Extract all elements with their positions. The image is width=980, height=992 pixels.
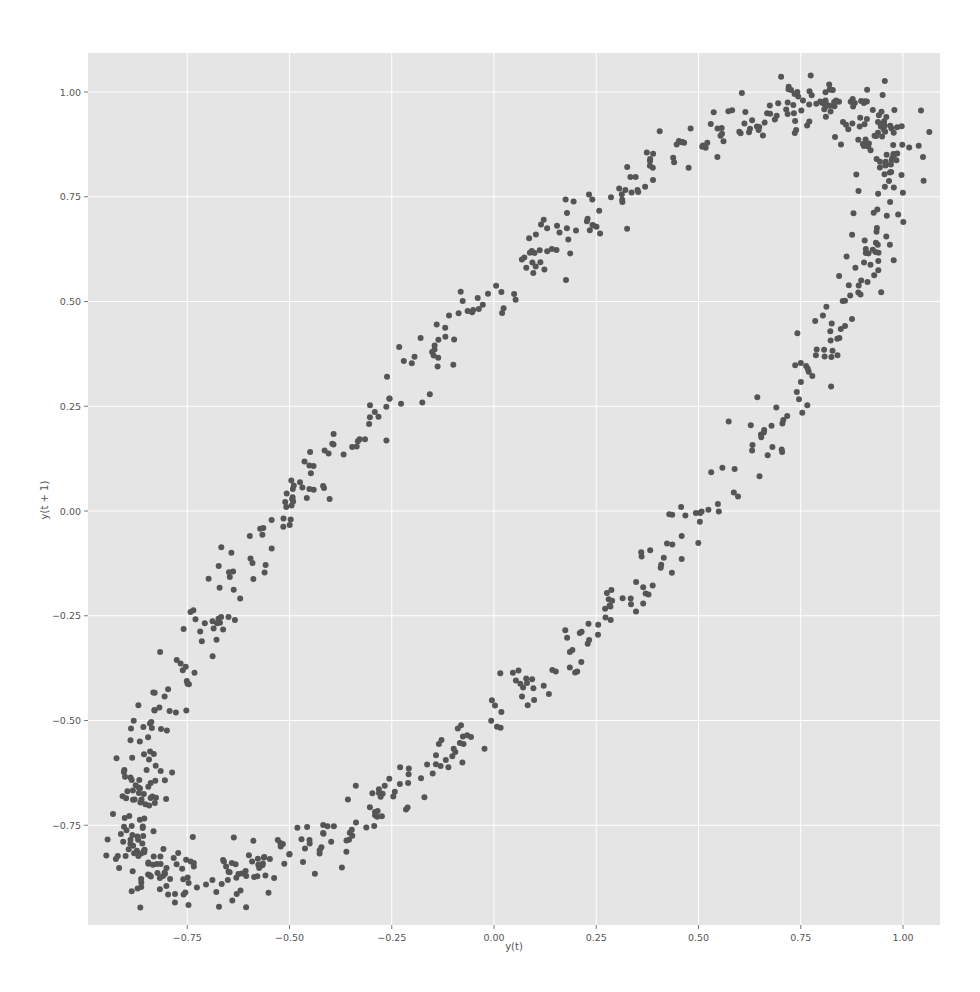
y-tick-label: 0.50 [60,296,81,307]
data-point [875,267,881,273]
data-point [519,694,525,700]
data-point [383,438,389,444]
data-point [430,770,436,776]
data-point [686,165,692,171]
data-point [554,223,560,229]
data-point [355,438,361,444]
data-point [419,400,425,406]
data-point [883,162,889,168]
data-point [482,746,488,752]
data-point [891,107,897,113]
data-point [877,165,883,171]
data-point [750,442,756,448]
y-axis-ticks: −0.75−0.50−0.250.000.250.500.751.00 [52,87,88,831]
data-point [367,804,373,810]
data-point [216,904,222,910]
data-point [371,823,377,829]
data-point [163,796,169,802]
data-point [442,334,448,340]
data-point [127,841,133,847]
y-tick-label: −0.25 [52,610,81,621]
data-point [834,336,840,342]
data-point [131,718,137,724]
y-axis-label: y(t + 1) [39,481,50,520]
data-point [199,638,205,644]
data-point [775,100,781,106]
data-point [228,550,234,556]
data-point [120,793,126,799]
data-point [647,547,653,553]
data-point [607,604,613,610]
data-point [210,653,216,659]
data-point [800,98,806,104]
data-point [255,856,261,862]
data-point [435,364,441,370]
data-point [451,336,457,342]
data-point [875,119,881,125]
data-point [287,522,293,528]
data-point [573,227,579,233]
data-point [121,769,127,775]
data-point [864,116,870,122]
x-tick-label: 0.75 [790,932,811,943]
data-point [586,621,592,627]
data-point [779,449,785,455]
data-point [369,790,375,796]
data-point [856,188,862,194]
data-point [311,487,317,493]
data-point [769,423,775,429]
data-point [537,247,543,253]
data-point [809,373,815,379]
data-point [563,277,569,283]
data-point [806,102,812,108]
data-point [498,725,504,731]
data-point [129,823,135,829]
data-point [271,875,277,881]
data-point [162,777,168,783]
data-point [679,533,685,539]
data-point [779,420,785,426]
data-point [863,250,869,256]
data-point [624,226,630,232]
data-point [493,283,499,289]
data-point [882,171,888,177]
data-point [307,841,313,847]
data-point [427,391,433,397]
data-point [533,264,539,270]
data-point [608,194,614,200]
data-point [262,569,268,575]
data-point [139,840,145,846]
data-point [145,860,151,866]
data-point [120,839,126,845]
data-point [920,154,926,160]
data-point [619,199,625,205]
data-point [562,627,568,633]
data-point [141,791,147,797]
x-tick-label: −0.50 [275,932,304,943]
data-point [719,125,725,131]
data-point [804,123,810,129]
data-point [511,291,517,297]
data-point [848,99,854,105]
data-point [661,555,667,561]
data-point [878,289,884,295]
data-point [328,839,334,845]
data-point [146,757,152,763]
data-point [894,124,900,130]
data-point [870,107,876,113]
data-point [191,860,197,866]
data-point [445,764,451,770]
data-point [772,117,778,123]
data-point [860,141,866,147]
x-tick-label: −0.75 [173,932,202,943]
data-point [629,190,635,196]
data-point [172,900,178,906]
data-point [638,549,644,555]
data-point [406,766,412,772]
data-point [251,874,257,880]
data-point [519,257,525,263]
data-point [640,601,646,607]
data-point [229,898,235,904]
data-point [267,856,273,862]
data-point [715,501,721,507]
